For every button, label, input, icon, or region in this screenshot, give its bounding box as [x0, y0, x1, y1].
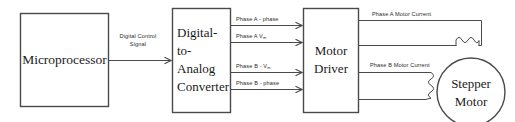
phase-a-phase-label: Phase A - phase — [236, 16, 279, 22]
block-microprocessor[interactable]: Microprocessor — [21, 14, 109, 107]
wire-phase-a-voltage: Phase A Vm — [231, 33, 303, 46]
dac-label-line3: Analog — [177, 61, 216, 76]
wire-phase-b-motor-current: Phase B Motor Current — [359, 62, 434, 99]
digital-control-signal-label-line2: Signal — [130, 41, 146, 47]
microprocessor-label: Microprocessor — [22, 52, 107, 67]
digital-control-signal-label-line1: Digital Control — [120, 33, 157, 39]
block-stepper-motor[interactable]: Stepper Motor — [437, 58, 505, 122]
wire-digital-control-signal: Digital Control Signal — [109, 33, 172, 64]
phase-b-voltage-label: Phase B - Vm — [236, 63, 271, 70]
phase-b-coil-icon — [426, 73, 434, 100]
phase-b-phase-label: Phase B - phase — [236, 80, 279, 86]
wire-phase-a-motor-current: Phase A Motor Current — [359, 11, 482, 45]
motor-driver-label-line2: Driver — [314, 61, 349, 76]
block-digital-to-analog-converter[interactable]: Digital- to- Analog Converter — [173, 9, 231, 113]
motor-driver-label-line1: Motor — [315, 43, 348, 58]
dac-label-line1: Digital- — [177, 25, 217, 40]
phase-a-motor-current-label: Phase A Motor Current — [372, 11, 431, 17]
phase-a-voltage-label: Phase A Vm — [236, 33, 266, 40]
stepper-motor-label-line2: Motor — [455, 94, 488, 109]
diagram-svg: Microprocessor Digital Control Signal Di… — [0, 0, 515, 122]
wire-phase-b-phase: Phase B - phase — [231, 80, 303, 93]
phase-a-coil-icon — [456, 37, 479, 45]
block-diagram-canvas: Microprocessor Digital Control Signal Di… — [0, 0, 515, 122]
dac-label-line2: to- — [177, 43, 191, 58]
wire-phase-b-voltage: Phase B - Vm — [231, 63, 303, 76]
wire-phase-a-phase: Phase A - phase — [231, 16, 303, 29]
phase-b-motor-current-label: Phase B Motor Current — [370, 62, 430, 68]
stepper-motor-label-line1: Stepper — [451, 76, 491, 91]
block-motor-driver[interactable]: Motor Driver — [304, 9, 359, 113]
dac-label-line4: Converter — [177, 79, 230, 94]
